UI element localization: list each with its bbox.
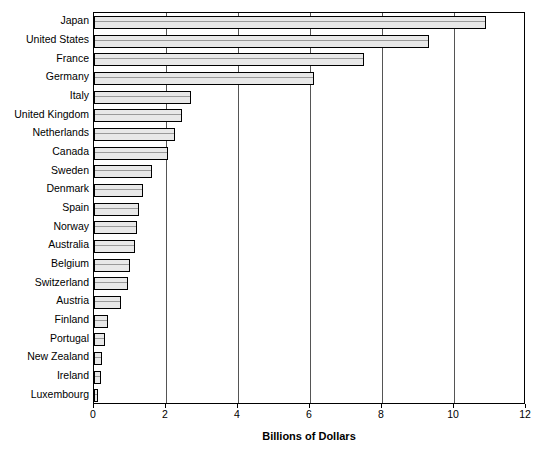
category-label: United Kingdom bbox=[0, 109, 89, 120]
bar-row bbox=[94, 162, 526, 181]
plot-area bbox=[93, 12, 525, 404]
bar-row bbox=[94, 312, 526, 331]
category-label: New Zealand bbox=[0, 351, 89, 362]
category-label: Italy bbox=[0, 90, 89, 101]
bar bbox=[94, 315, 108, 328]
bar bbox=[94, 296, 121, 309]
bar bbox=[94, 184, 143, 197]
x-tick-label: 2 bbox=[162, 408, 168, 420]
bar-chart: JapanUnited StatesFranceGermanyItalyUnit… bbox=[0, 0, 544, 454]
bar-row bbox=[94, 256, 526, 275]
bar-row bbox=[94, 32, 526, 51]
bar-row bbox=[94, 368, 526, 387]
bar bbox=[94, 389, 98, 402]
x-tick-label: 12 bbox=[519, 408, 531, 420]
category-label: Ireland bbox=[0, 370, 89, 381]
x-tick-label: 8 bbox=[378, 408, 384, 420]
category-label: Finland bbox=[0, 314, 89, 325]
bar bbox=[94, 128, 175, 141]
bar-row bbox=[94, 274, 526, 293]
category-label: Sweden bbox=[0, 165, 89, 176]
bars-layer bbox=[94, 13, 524, 403]
bar-row bbox=[94, 200, 526, 219]
category-label: United States bbox=[0, 34, 89, 45]
bar-row bbox=[94, 106, 526, 125]
bar bbox=[94, 240, 135, 253]
bar bbox=[94, 203, 139, 216]
bar-row bbox=[94, 181, 526, 200]
category-label: Netherlands bbox=[0, 127, 89, 138]
bar bbox=[94, 259, 130, 272]
bar bbox=[94, 53, 364, 66]
category-label: Spain bbox=[0, 202, 89, 213]
bar-row bbox=[94, 386, 526, 405]
category-label: Japan bbox=[0, 15, 89, 26]
category-label: France bbox=[0, 53, 89, 64]
category-label: Norway bbox=[0, 221, 89, 232]
bar bbox=[94, 165, 152, 178]
category-label: Luxembourg bbox=[0, 389, 89, 400]
bar bbox=[94, 277, 128, 290]
bar bbox=[94, 16, 486, 29]
category-label: Portugal bbox=[0, 333, 89, 344]
category-label: Austria bbox=[0, 295, 89, 306]
bar-row bbox=[94, 144, 526, 163]
bar bbox=[94, 91, 191, 104]
bar bbox=[94, 147, 168, 160]
x-tick-label: 6 bbox=[306, 408, 312, 420]
bar-row bbox=[94, 237, 526, 256]
category-label: Germany bbox=[0, 71, 89, 82]
x-tick-label: 4 bbox=[234, 408, 240, 420]
bar-row bbox=[94, 50, 526, 69]
x-axis-title: Billions of Dollars bbox=[93, 430, 525, 443]
bar-row bbox=[94, 88, 526, 107]
bar bbox=[94, 109, 182, 122]
category-label: Switzerland bbox=[0, 277, 89, 288]
category-label: Belgium bbox=[0, 258, 89, 269]
bar-row bbox=[94, 349, 526, 368]
bar-row bbox=[94, 13, 526, 32]
category-axis-labels: JapanUnited StatesFranceGermanyItalyUnit… bbox=[0, 12, 89, 404]
category-label: Canada bbox=[0, 146, 89, 157]
bar-row bbox=[94, 69, 526, 88]
category-label: Denmark bbox=[0, 183, 89, 194]
bar bbox=[94, 352, 102, 365]
bar bbox=[94, 72, 314, 85]
category-label: Australia bbox=[0, 239, 89, 250]
bar bbox=[94, 371, 101, 384]
bar bbox=[94, 333, 105, 346]
bar bbox=[94, 221, 137, 234]
x-axis-ticks: 024681012 bbox=[93, 404, 525, 420]
x-tick-label: 0 bbox=[90, 408, 96, 420]
bar-row bbox=[94, 218, 526, 237]
bar bbox=[94, 35, 429, 48]
x-tick-label: 10 bbox=[447, 408, 459, 420]
bar-row bbox=[94, 293, 526, 312]
bar-row bbox=[94, 330, 526, 349]
bar-row bbox=[94, 125, 526, 144]
